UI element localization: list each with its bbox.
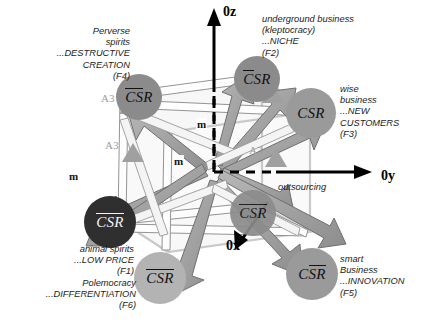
node-f3[interactable]: CSR bbox=[286, 88, 336, 138]
edge-label-m: m bbox=[68, 170, 79, 182]
node-f5-label: CSR bbox=[298, 266, 325, 283]
caption-f3: wise business ...NEW CUSTOMERS (F3) bbox=[340, 84, 422, 140]
a3-marker-triangle bbox=[265, 148, 287, 167]
axis-label-0z: 0z bbox=[223, 4, 236, 20]
a3-label: A3 bbox=[249, 144, 262, 156]
node-f5-label-overline: SR bbox=[309, 266, 326, 283]
node-f6[interactable]: CSR bbox=[134, 252, 186, 304]
a3-marker-triangle bbox=[122, 143, 144, 162]
node-f2-label-overline: C bbox=[243, 71, 253, 88]
node-f4-label: CSR bbox=[125, 89, 152, 106]
node-f3-label: CSR bbox=[297, 105, 324, 122]
edge-label-m: m bbox=[196, 118, 207, 130]
annotation-outsourcing: outsourcing bbox=[278, 182, 326, 192]
node-rear-label: CSR bbox=[239, 205, 266, 222]
node-f1[interactable]: CSR bbox=[84, 196, 136, 248]
diagram-canvas: A3 A3 A3 A3 m m m CSR CSR CSR CSR CSR CS… bbox=[0, 0, 422, 332]
edge-label-m: m bbox=[173, 155, 184, 167]
axis-label-0y: 0y bbox=[381, 168, 395, 184]
axis-label-0x: 0x bbox=[226, 238, 240, 254]
node-f2-label: CSR bbox=[243, 71, 270, 88]
caption-f1: animal spirits ...LOW PRICE (F1) bbox=[4, 244, 134, 278]
node-rear-label-overline: CSR bbox=[239, 205, 266, 222]
caption-f6: Polemocracy ...DIFFERENTIATION (F6) bbox=[0, 278, 136, 312]
caption-f4: Perverse spirits ...DESTRUCTIVE CREATION… bbox=[8, 26, 130, 82]
caption-f5: smart Business ...INNOVATION (F5) bbox=[340, 254, 422, 299]
node-f5[interactable]: CSR bbox=[286, 248, 338, 300]
node-f4-label-overline: CS bbox=[125, 89, 143, 106]
caption-f2: underground business (kleptocracy) ...NI… bbox=[262, 14, 412, 59]
a3-label: A3 bbox=[105, 139, 118, 151]
node-f1-label: CSR bbox=[96, 214, 123, 231]
node-rear-outsourcing[interactable]: CSR bbox=[230, 190, 276, 236]
a3-label: A3 bbox=[101, 92, 114, 104]
node-f1-label-overline: CSR bbox=[96, 214, 123, 231]
node-f2[interactable]: CSR bbox=[234, 56, 280, 102]
node-f6-label-overline: CSR bbox=[146, 270, 173, 287]
node-f6-label: CSR bbox=[146, 270, 173, 287]
